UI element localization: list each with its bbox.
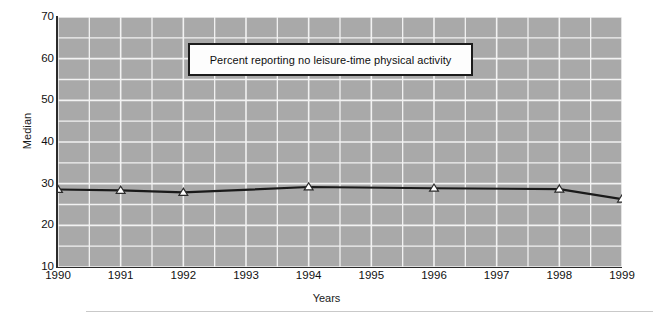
y-axis-tick-label: 40 <box>30 136 54 148</box>
y-axis-tick-label: 70 <box>30 11 54 23</box>
x-axis-tick-label: 1995 <box>346 270 396 282</box>
x-axis-tick-label: 1996 <box>409 270 459 282</box>
footer-rule <box>86 311 653 312</box>
y-axis-tick-label: 60 <box>30 53 54 65</box>
chart-caption-text: Percent reporting no leisure-time physic… <box>210 54 452 66</box>
x-axis-tick-label: 1992 <box>158 270 208 282</box>
y-axis-tick-label: 30 <box>30 178 54 190</box>
x-axis-tick-label: 1997 <box>472 270 522 282</box>
x-axis-tick-label: 1999 <box>597 270 647 282</box>
x-axis-title: Years <box>0 292 653 304</box>
chart-caption-box: Percent reporting no leisure-time physic… <box>188 43 473 76</box>
x-axis-tick-label: 1994 <box>284 270 334 282</box>
y-axis-tick-label: 20 <box>30 219 54 231</box>
x-axis-tick-labels: 1990199119921993199419951996199719981999 <box>0 270 653 288</box>
chart-figure: Median 10203040506070 Percent reporting … <box>0 0 653 317</box>
x-axis-tick-label: 1993 <box>221 270 271 282</box>
y-axis-tick-label: 50 <box>30 94 54 106</box>
x-axis-tick-label: 1990 <box>33 270 83 282</box>
x-axis-tick-label: 1998 <box>534 270 584 282</box>
x-axis-tick-label: 1991 <box>96 270 146 282</box>
